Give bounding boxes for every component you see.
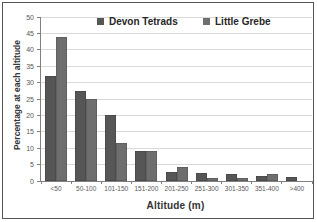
y-tick-label: 0 [4,178,34,185]
legend-label: Devon Tetrads [109,16,178,27]
x-category-label: 351-400 [252,185,282,193]
legend-item-little-grebe: Little Grebe [203,14,271,28]
bar-devon-tetrads-351-400 [256,176,267,181]
bar-little-grebe-151-200 [146,151,157,182]
bar-devon-tetrads-101-150 [105,115,116,181]
bar-little-grebe-101-150 [116,143,127,181]
chart-screenshot: Percentage at each altitude Altitude (m)… [0,0,317,222]
x-tick-mark [41,181,42,184]
x-category-label: 301-350 [222,185,252,193]
y-tick-mark [37,115,40,116]
little-grebe-swatch-icon [203,18,210,25]
bar-devon-tetrads-50-100 [75,91,86,181]
gridline-y-45 [41,33,312,34]
x-tick-mark [71,181,72,184]
y-tick-label: 35 [4,63,34,70]
legend-item-devon-tetrads: Devon Tetrads [97,14,178,28]
x-tick-mark [131,181,132,184]
x-category-label: 101-150 [101,185,131,193]
bar-little-grebe-301-350 [237,178,248,181]
y-tick-label: 30 [4,79,34,86]
gridline-y-35 [41,66,312,67]
x-category-label: 251-300 [192,185,222,193]
y-tick-label: 45 [4,30,34,37]
legend: Devon Tetrads Little Grebe [3,14,317,28]
x-tick-mark [312,181,313,184]
x-tick-mark [281,181,282,184]
plot-area: 05101520253035404550<5050-100101-150151-… [40,17,312,182]
y-tick-label: 5 [4,161,34,168]
chart-frame: Percentage at each altitude Altitude (m)… [2,2,314,219]
bar-little-grebe-201-250 [177,167,188,181]
gridline-y-40 [41,49,312,50]
y-tick-mark [37,164,40,165]
y-tick-label: 20 [4,112,34,119]
y-tick-mark [37,148,40,149]
y-tick-label: 10 [4,145,34,152]
bar-devon-tetrads-301-350 [226,174,237,181]
x-tick-mark [161,181,162,184]
x-category-label: >400 [282,185,312,193]
y-tick-label: 25 [4,96,34,103]
bar-little-grebe-351-400 [267,174,278,181]
x-tick-mark [221,181,222,184]
y-tick-mark [37,99,40,100]
x-tick-mark [251,181,252,184]
bar-little-grebe-251-300 [207,178,218,181]
y-tick-mark [37,82,40,83]
bar-devon-tetrads-201-250 [166,172,177,181]
x-tick-mark [101,181,102,184]
x-category-label: 151-200 [131,185,161,193]
bar-devon-tetrads-251-300 [196,173,207,181]
devon-tetrads-swatch-icon [97,18,104,25]
x-category-label: <50 [41,185,71,193]
y-tick-mark [37,33,40,34]
x-tick-mark [191,181,192,184]
y-tick-mark [37,131,40,132]
y-tick-mark [37,66,40,67]
gridline-y-30 [41,82,312,83]
y-tick-mark [37,49,40,50]
x-category-label: 50-100 [71,185,101,193]
bar-devon-tetrads-151-200 [135,151,146,181]
bar-devon-tetrads->400 [286,177,297,181]
bar-little-grebe-<50 [56,37,67,181]
legend-label: Little Grebe [215,16,271,27]
y-tick-label: 15 [4,128,34,135]
bar-little-grebe-50-100 [86,99,97,181]
x-axis-title: Altitude (m) [40,200,311,211]
x-category-label: 201-250 [161,185,191,193]
y-tick-label: 40 [4,46,34,53]
bar-devon-tetrads-<50 [45,76,56,181]
